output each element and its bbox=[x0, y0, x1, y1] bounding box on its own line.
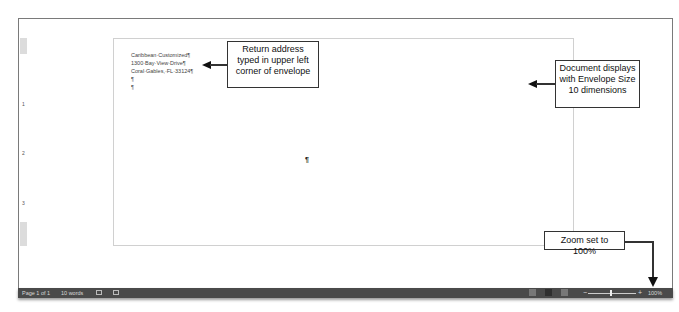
zoom-out-button[interactable]: − bbox=[583, 289, 587, 297]
zoom-slider-thumb[interactable] bbox=[610, 290, 612, 296]
read-mode-button[interactable] bbox=[529, 289, 536, 296]
callout-envelope-size: Document displays with Envelope Size 10 … bbox=[555, 60, 640, 108]
word-count[interactable]: 10 words bbox=[61, 290, 83, 296]
page-count[interactable]: Page 1 of 1 bbox=[22, 290, 50, 296]
callout-line bbox=[625, 241, 653, 243]
status-bar: Page 1 of 1 10 words − + 100% bbox=[18, 288, 673, 298]
callout-line bbox=[210, 64, 227, 66]
callout-line bbox=[652, 241, 654, 278]
macro-record-icon[interactable] bbox=[113, 290, 119, 295]
web-layout-button[interactable] bbox=[561, 289, 568, 296]
ruler-margin-top bbox=[20, 38, 27, 54]
address-line: Caribbean·Customized¶ bbox=[131, 51, 193, 59]
zoom-slider[interactable] bbox=[588, 293, 636, 294]
paragraph-mark: ¶ bbox=[305, 156, 309, 163]
ruler-margin-bottom bbox=[20, 222, 27, 246]
empty-paragraph: ¶ bbox=[131, 83, 193, 91]
arrow-down-icon bbox=[648, 277, 658, 287]
callout-line bbox=[536, 83, 555, 85]
callout-zoom: Zoom set to 100% bbox=[544, 231, 625, 250]
address-line: Coral·Gables,·FL·33124¶ bbox=[131, 67, 193, 75]
return-address[interactable]: Caribbean·Customized¶ 1300·Bay·View·Driv… bbox=[131, 51, 193, 91]
ruler-number: 3 bbox=[22, 200, 25, 206]
address-line: 1300·Bay·View·Drive¶ bbox=[131, 59, 193, 67]
ruler-number: 2 bbox=[22, 150, 25, 156]
ruler-number: 1 bbox=[22, 101, 25, 107]
callout-return-address: Return address typed in upper left corne… bbox=[227, 41, 319, 88]
zoom-in-button[interactable]: + bbox=[638, 289, 642, 297]
empty-paragraph: ¶ bbox=[131, 75, 193, 83]
print-layout-button[interactable] bbox=[545, 289, 552, 296]
proofing-icon[interactable] bbox=[96, 290, 102, 295]
vertical-ruler[interactable]: 1 2 3 bbox=[20, 38, 28, 246]
zoom-level[interactable]: 100% bbox=[648, 290, 662, 296]
